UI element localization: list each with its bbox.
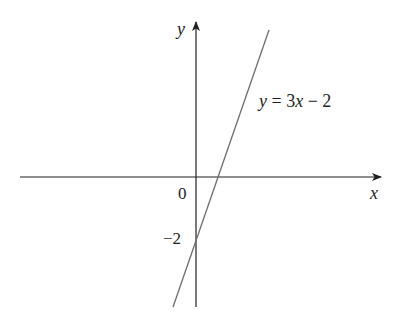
x-axis-label: x [369, 183, 378, 203]
graph: y x 0 −2 y = 3x − 2 [0, 0, 401, 316]
equation-label: y = 3x − 2 [257, 91, 331, 111]
y-intercept-label: −2 [163, 229, 181, 248]
origin-label: 0 [178, 184, 187, 203]
plotted-line [173, 30, 269, 307]
y-axis-label: y [175, 19, 185, 39]
